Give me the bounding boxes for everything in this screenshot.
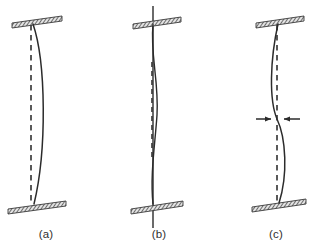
panel-caption-a: (a) — [39, 228, 54, 240]
buckling-figure: (a) (b) (c) — [0, 0, 311, 247]
panel-caption-b: (b) — [152, 228, 167, 240]
figure-root: (a) (b) (c) — [0, 0, 311, 247]
panel-caption-c: (c) — [269, 228, 283, 240]
